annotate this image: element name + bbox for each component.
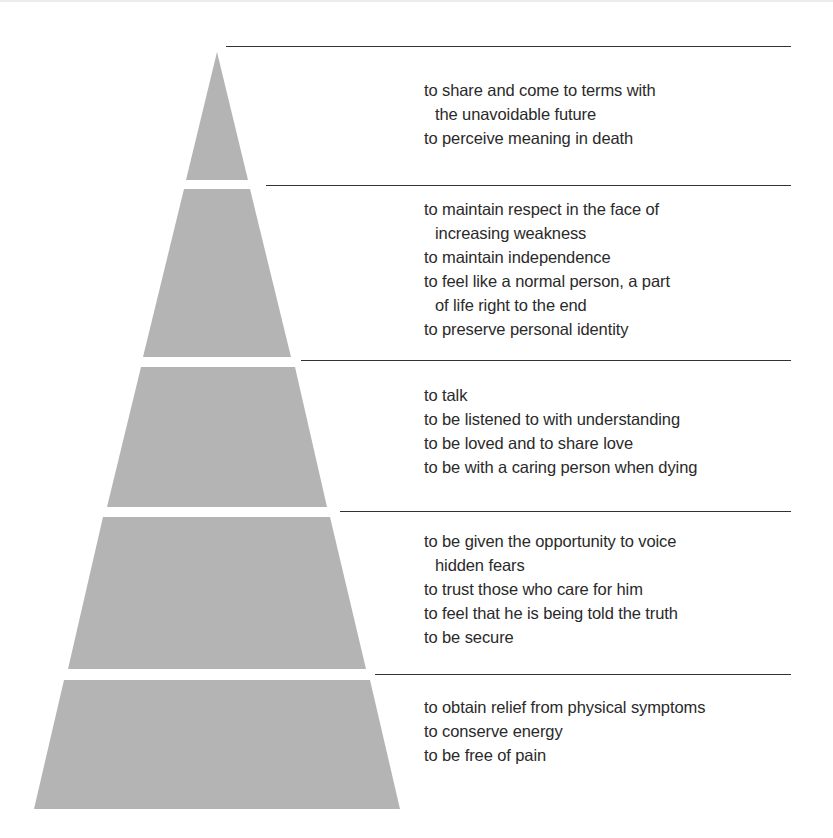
- pyramid-tier-1-base: [34, 680, 400, 809]
- pyramid-tier-4: [143, 189, 291, 357]
- need-text: to be loved and to share love: [424, 431, 697, 455]
- tier-4-needs: to maintain respect in the face of incre…: [424, 197, 670, 341]
- pyramid-tier-3: [107, 367, 327, 507]
- need-text: to trust those who care for him: [424, 577, 678, 601]
- need-text: to obtain relief from physical symptoms: [424, 695, 705, 719]
- need-text-continuation: the unavoidable future: [424, 102, 656, 126]
- need-text-continuation: of life right to the end: [424, 293, 670, 317]
- need-text: to be listened to with understanding: [424, 407, 697, 431]
- tier-3-divider-line: [301, 360, 791, 361]
- tier-1-needs: to obtain relief from physical symptoms …: [424, 695, 705, 767]
- need-text: to be given the opportunity to voice: [424, 529, 678, 553]
- need-text: to be with a caring person when dying: [424, 455, 697, 479]
- need-text: to feel that he is being told the truth: [424, 601, 678, 625]
- need-text: to talk: [424, 383, 697, 407]
- pyramid-tier-2: [68, 517, 366, 669]
- pyramid-graphic: [0, 0, 833, 838]
- tier-5-needs: to share and come to terms with the unav…: [424, 78, 656, 150]
- tier-3-needs: to talk to be listened to with understan…: [424, 383, 697, 479]
- tier-4-divider-line: [266, 185, 791, 186]
- tier-5-divider-line: [226, 46, 791, 47]
- need-text: to perceive meaning in death: [424, 126, 656, 150]
- need-text: to be secure: [424, 625, 678, 649]
- need-text: to maintain respect in the face of: [424, 197, 670, 221]
- tier-2-needs: to be given the opportunity to voice hid…: [424, 529, 678, 649]
- need-text-continuation: increasing weakness: [424, 221, 670, 245]
- pyramid-tier-5-apex: [186, 52, 248, 180]
- need-text: to feel like a normal person, a part: [424, 269, 670, 293]
- need-text: to maintain independence: [424, 245, 670, 269]
- tier-2-divider-line: [340, 511, 791, 512]
- need-text: to preserve personal identity: [424, 317, 670, 341]
- need-text: to be free of pain: [424, 743, 705, 767]
- need-text: to share and come to terms with: [424, 78, 656, 102]
- need-text-continuation: hidden fears: [424, 553, 678, 577]
- tier-1-divider-line: [375, 674, 791, 675]
- need-text: to conserve energy: [424, 719, 705, 743]
